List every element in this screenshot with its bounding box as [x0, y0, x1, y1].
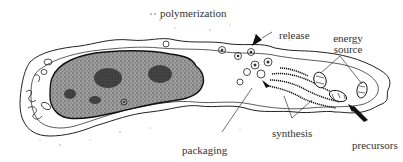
chromatin-blob [148, 65, 172, 83]
chromatin-blob [94, 68, 122, 88]
release-pointer [262, 32, 272, 38]
label-synthesis: synthesis [272, 128, 312, 139]
label-polymerization: polymerization [160, 8, 227, 19]
chromatin-blob [64, 89, 76, 99]
label-release: release [279, 30, 310, 41]
chromatin-blob [89, 96, 101, 104]
nucleus [50, 51, 203, 119]
mitochondria [312, 70, 369, 103]
left-membrane-folds [26, 59, 52, 119]
cell-diagram [0, 0, 403, 162]
label-packaging: packaging [182, 145, 227, 156]
rough-er-stacks [268, 68, 340, 108]
label-energy-source-line2: source [330, 44, 366, 55]
label-precursors: precursors [352, 140, 398, 151]
